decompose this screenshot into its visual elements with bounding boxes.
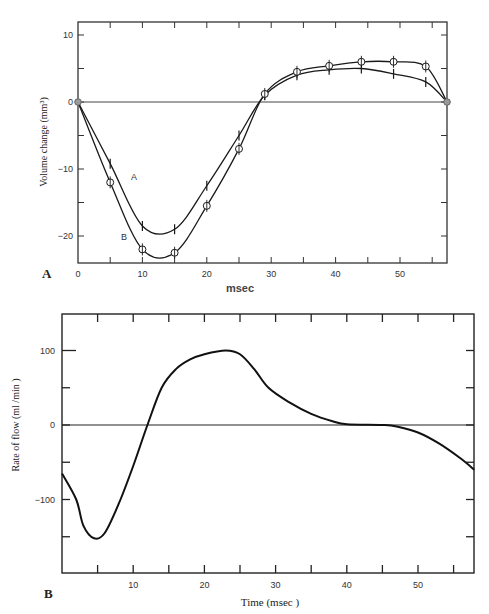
x-tick-label: 0 xyxy=(75,269,80,279)
x-tick-label: 20 xyxy=(202,269,212,279)
panel-a-curves xyxy=(75,56,450,259)
y-tick-label: −100 xyxy=(35,495,55,505)
panel-b-frame xyxy=(62,314,474,573)
endpoint-marker xyxy=(75,99,81,105)
curve-a-label: A xyxy=(131,172,137,182)
x-tick-label: 40 xyxy=(331,269,341,279)
panel-a-x-axis-title: msec xyxy=(226,282,254,294)
curve-b-label: B xyxy=(121,232,127,242)
x-tick-label: 40 xyxy=(342,580,352,590)
y-tick-label: −20 xyxy=(58,231,73,241)
panel-a-frame xyxy=(78,22,447,263)
figure: 01020304050100−10−20 A B msec Volume cha… xyxy=(0,0,489,614)
x-tick-label: 50 xyxy=(395,269,405,279)
panel-b-letter: B xyxy=(44,586,53,601)
x-tick-label: 10 xyxy=(137,269,147,279)
x-tick-label: 30 xyxy=(266,269,276,279)
flow-rate-line xyxy=(62,351,474,539)
panel-b-curves xyxy=(62,351,474,539)
panel-b-x-axis-title: Time (msec ) xyxy=(241,596,300,609)
y-tick-label: −10 xyxy=(58,164,73,174)
y-tick-label: 0 xyxy=(50,420,55,430)
panel-a-chart: 01020304050100−10−20 A B msec Volume cha… xyxy=(38,22,450,294)
x-tick-label: 20 xyxy=(199,580,209,590)
panel-a-y-axis-title: Volume change (mm³) xyxy=(38,97,50,186)
panel-a-ticks: 01020304050100−10−20 xyxy=(58,22,447,279)
y-tick-label: 0 xyxy=(68,97,73,107)
x-tick-label: 10 xyxy=(128,580,138,590)
y-tick-label: 10 xyxy=(63,30,73,40)
x-tick-label: 50 xyxy=(413,580,423,590)
x-tick-label: 30 xyxy=(271,580,281,590)
endpoint-marker xyxy=(444,99,450,105)
panel-b-y-axis-title: Rate of flow (ml /min ) xyxy=(10,378,22,471)
panel-b-ticks: 10203040501000−100 xyxy=(35,314,474,590)
panel-a-letter: A xyxy=(42,266,52,281)
panel-b-chart: 10203040501000−100 Time (msec ) Rate of … xyxy=(10,314,474,609)
y-tick-label: 100 xyxy=(40,346,55,356)
